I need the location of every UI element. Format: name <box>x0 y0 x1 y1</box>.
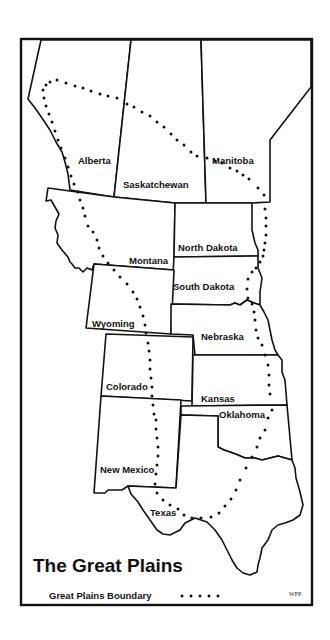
boundary-dot <box>183 514 186 517</box>
great-plains-map: Alberta Saskatchewan Manitoba Montana No… <box>0 0 330 640</box>
boundary-dot <box>149 368 152 371</box>
legend-dot <box>181 595 184 598</box>
boundary-dot <box>116 97 119 100</box>
boundary-dot <box>239 479 242 482</box>
boundary-dot <box>60 147 63 150</box>
boundary-dot <box>157 446 160 449</box>
boundary-dot <box>155 473 158 476</box>
boundary-dot <box>264 242 267 245</box>
boundary-dot <box>257 187 260 190</box>
boundary-dot <box>90 90 93 93</box>
boundary-dot <box>149 115 152 118</box>
boundary-dot <box>183 144 186 147</box>
boundary-dot <box>154 483 157 486</box>
map-title: The Great Plains <box>33 555 183 576</box>
label-new-mexico: New Mexico <box>100 464 155 475</box>
boundary-dot <box>256 446 259 449</box>
boundary-dot <box>151 386 154 389</box>
boundary-dot <box>65 82 68 85</box>
boundary-dot <box>271 409 274 412</box>
boundary-dot <box>147 342 150 345</box>
boundary-dot <box>177 508 180 511</box>
boundary-dot <box>45 84 48 87</box>
boundary-dot <box>267 364 270 367</box>
boundary-dot <box>255 329 258 332</box>
boundary-dot <box>148 350 151 353</box>
boundary-dot <box>141 111 144 114</box>
label-kansas: Kansas <box>201 393 235 404</box>
boundary-dot <box>153 413 156 416</box>
boundary-dot <box>119 276 122 279</box>
boundary-dot <box>70 175 73 178</box>
boundary-dot <box>176 139 179 142</box>
boundary-dot <box>151 395 154 398</box>
boundary-dot <box>145 332 148 335</box>
boundary-dot <box>264 354 267 357</box>
region-alberta <box>28 40 131 197</box>
label-oklahoma: Oklahoma <box>219 409 266 420</box>
boundary-dot <box>261 344 264 347</box>
boundary-dot <box>196 155 199 158</box>
legend-dot <box>208 595 211 598</box>
boundary-dot <box>269 393 272 396</box>
boundary-dot <box>142 315 145 318</box>
boundary-dot <box>92 231 95 234</box>
boundary-dot <box>236 170 239 173</box>
boundary-dot <box>253 311 256 314</box>
boundary-dot <box>191 517 194 520</box>
boundary-dot <box>190 151 193 154</box>
boundary-dot <box>262 255 265 258</box>
boundary-dot <box>152 404 155 407</box>
boundary-dot <box>206 157 209 160</box>
boundary-dot <box>251 456 254 459</box>
boundary-dot <box>224 505 227 508</box>
boundary-dot <box>218 512 221 515</box>
boundary-dot <box>265 217 268 220</box>
boundary-dot <box>259 261 262 264</box>
boundary-dot <box>107 262 110 265</box>
boundary-dot <box>42 89 45 92</box>
region-new-mexico <box>94 396 181 493</box>
label-manitoba: Manitoba <box>212 155 254 166</box>
boundary-dot <box>45 105 48 108</box>
label-colorado: Colorado <box>106 381 148 392</box>
boundary-dot <box>263 194 266 197</box>
boundary-dot <box>126 283 129 286</box>
boundary-dot <box>235 489 238 492</box>
boundary-dot <box>156 437 159 440</box>
boundary-dot <box>245 467 248 470</box>
boundary-dot <box>82 87 85 90</box>
boundary-dot <box>251 303 254 306</box>
legend-label: Great Plains Boundary <box>49 590 152 601</box>
boundary-dot <box>67 166 70 169</box>
boundary-dot <box>136 298 139 301</box>
boundary-dot <box>155 419 158 422</box>
boundary-dot <box>254 319 257 322</box>
boundary-dot <box>242 174 245 177</box>
boundary-dot <box>230 498 233 501</box>
boundary-dot <box>229 167 232 170</box>
boundary-dot <box>157 455 160 458</box>
boundary-dot <box>149 359 152 362</box>
label-north-dakota: North Dakota <box>178 242 238 253</box>
boundary-dot <box>56 79 59 82</box>
boundary-dot <box>82 207 85 210</box>
boundary-dot <box>248 178 251 181</box>
boundary-dot <box>98 247 101 250</box>
legend-dotted-line-symbol <box>181 595 220 598</box>
label-montana: Montana <box>129 255 169 266</box>
boundary-dot <box>57 139 60 142</box>
boundary-dot <box>268 374 271 377</box>
boundary-dot <box>96 239 99 242</box>
label-texas: Texas <box>150 507 176 518</box>
boundary-dot <box>87 225 90 228</box>
boundary-dot <box>43 97 46 100</box>
map-credit: WFP <box>289 591 302 597</box>
boundary-dot <box>84 215 87 218</box>
boundary-dot <box>156 121 159 124</box>
boundary-dot <box>162 499 165 502</box>
boundary-dot <box>259 437 262 440</box>
boundary-dot <box>155 428 158 431</box>
label-nebraska: Nebraska <box>201 331 244 342</box>
boundary-dot <box>126 103 129 106</box>
